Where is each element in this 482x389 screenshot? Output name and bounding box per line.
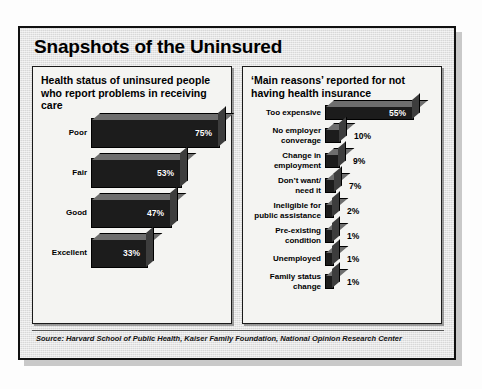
bar-value-label: 1% [347,277,359,287]
bar: 33% [91,238,148,268]
bar-category-label: No employerconverage [249,126,325,145]
bar-category-line: need it [295,186,321,195]
screenshot-root: Snapshots of the Uninsured Health status… [0,0,482,389]
page-title: Snapshots of the Uninsured [34,36,282,58]
bar [325,251,334,266]
left-bar-chart: Poor75%Fair53%Good47%Excellent33% [33,112,231,268]
bar: 53% [91,158,182,188]
bar-category-label: Don’t want/need it [249,176,325,195]
chart-row: Poor75% [39,118,225,148]
bar [325,274,334,289]
bar-value-label: 55% [389,108,413,118]
bar-value-label: 2% [347,206,359,216]
bar-category-line: Good [66,208,87,217]
bar-value-label: 47% [147,208,171,218]
bar-category-line: Don’t want/ [278,176,321,185]
chart-row: Don’t want/need it7% [249,176,435,195]
bar-category-line: change [293,282,321,291]
bar-category-line: converage [281,136,321,145]
bar-value-label: 1% [347,231,359,241]
bar-category-label: Poor [39,128,91,138]
infographic-card: Snapshots of the Uninsured Health status… [18,26,456,360]
source-divider [32,330,444,331]
bar: 75% [91,118,220,148]
bar [325,178,336,193]
chart-row: Unemployed1% [249,251,435,266]
chart-row: Good47% [39,198,225,228]
bar-category-label: Pre-existingcondition [249,226,325,245]
bar-category-line: Too expensive [266,108,321,117]
chart-row: Fair53% [39,158,225,188]
bar-category-line: Excellent [52,248,87,257]
right-chart-panel: ‘Main reasons’ reported for not having h… [242,66,442,324]
bar [325,203,334,218]
bar-value-label: 53% [157,168,181,178]
bar-category-label: Too expensive [249,108,325,118]
bar-category-line: Fair [72,168,87,177]
bar-value-label: 1% [347,254,359,264]
chart-row: Family statuschange1% [249,272,435,291]
bar-category-line: Ineligible for [273,201,321,210]
bar-category-line: No employer [273,126,321,135]
bar-category-line: condition [285,236,321,245]
right-bar-chart: Too expensive55%No employerconverage10%C… [243,99,441,291]
bar-category-line: public assistance [254,211,321,220]
bar: 55% [325,105,414,120]
chart-row: Change inemployment9% [249,151,435,170]
source-note: Source: Harvard School of Public Health,… [36,334,402,343]
chart-row: Too expensive55% [249,105,435,120]
bar-category-line: Change in [282,151,321,160]
bar-category-line: employment [274,161,321,170]
chart-row: Pre-existingcondition1% [249,226,435,245]
bar: 47% [91,198,172,228]
bar-category-label: Family statuschange [249,272,325,291]
bar-category-line: Pre-existing [275,226,321,235]
chart-row: Excellent33% [39,238,225,268]
bar-category-label: Fair [39,168,91,178]
bar [325,153,340,168]
bar [325,128,341,143]
bar-value-label: 75% [195,128,219,138]
bar-category-label: Excellent [39,248,91,258]
bar-category-label: Ineligible forpublic assistance [249,201,325,220]
panels-container: Health status of uninsured people who re… [32,66,442,324]
bar-value-label: 33% [123,248,147,258]
left-chart-panel: Health status of uninsured people who re… [32,66,232,324]
bar-value-label: 7% [349,181,361,191]
bar-value-label: 10% [354,131,371,141]
chart-row: Ineligible forpublic assistance2% [249,201,435,220]
bar-category-label: Good [39,208,91,218]
left-chart-title: Health status of uninsured people who re… [33,67,231,112]
chart-row: No employerconverage10% [249,126,435,145]
bar-value-label: 9% [353,156,365,166]
bar [325,228,334,243]
right-chart-title: ‘Main reasons’ reported for not having h… [243,67,441,99]
bar-category-line: Family status [270,272,321,281]
bar-category-line: Poor [69,128,87,137]
bar-category-label: Unemployed [249,254,325,264]
bar-category-line: Unemployed [273,254,321,263]
bar-category-label: Change inemployment [249,151,325,170]
